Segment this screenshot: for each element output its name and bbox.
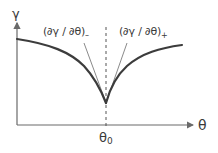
x-axis-label: θ bbox=[198, 118, 207, 132]
left-derivative-expression: (∂γ / ∂θ) bbox=[43, 25, 85, 38]
right-derivative-subscript: + bbox=[161, 31, 168, 40]
gamma-curve-right bbox=[106, 45, 182, 103]
right-derivative-expression: (∂γ / ∂θ) bbox=[119, 25, 161, 38]
theta0-symbol: θ bbox=[99, 130, 107, 145]
theta0-label: θ0 bbox=[99, 131, 113, 146]
right-derivative-label: (∂γ / ∂θ)+ bbox=[119, 26, 168, 40]
gamma-curve-left bbox=[17, 39, 106, 103]
theta0-subscript: 0 bbox=[107, 136, 113, 146]
y-axis-label: γ bbox=[12, 7, 20, 20]
left-derivative-subscript: – bbox=[85, 31, 89, 40]
left-derivative-label: (∂γ / ∂θ)– bbox=[43, 26, 89, 40]
